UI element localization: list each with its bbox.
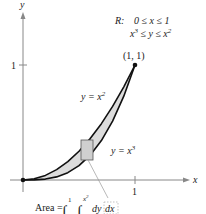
- representative-rectangle: [81, 140, 93, 160]
- dy-term: dy: [92, 203, 102, 214]
- point-1-1: [133, 63, 138, 68]
- lower-curve-exp: 3: [131, 144, 136, 152]
- origin-point: [21, 178, 26, 183]
- region-condition-y: x3 ≤ y ≤ x2: [129, 27, 172, 39]
- outer-integral-sign: ∫: [61, 203, 68, 214]
- area-formula-lhs: Area =: [35, 202, 63, 213]
- x-axis-arrow-icon: [183, 178, 190, 183]
- point-label: (1, 1): [123, 50, 145, 62]
- y-axis-arrow-icon: [21, 12, 26, 19]
- cond2-exp2: 2: [168, 27, 172, 35]
- inner-integral-sign: ∫: [76, 203, 83, 214]
- cond2-mid: ≤ y ≤ x: [138, 28, 168, 39]
- x-tick-label: 1: [132, 186, 137, 197]
- upper-curve-lhs: y = x: [80, 91, 102, 102]
- dx-term: dx: [105, 203, 115, 214]
- inner-upper-limit: x2: [82, 194, 89, 203]
- lower-curve-label: y = x3: [110, 144, 136, 156]
- leader-line: [88, 160, 108, 198]
- x-axis-label: x: [192, 174, 198, 185]
- region-diagram: y x 1 1 R: 0 ≤ x ≤ 1 x3 ≤ y ≤ x2 (1, 1) …: [0, 0, 206, 214]
- y-tick-label: 1: [11, 60, 16, 71]
- region-name: R:: [114, 15, 124, 26]
- outer-upper-limit: 1: [68, 196, 72, 204]
- lower-curve-lhs: y = x: [110, 145, 132, 156]
- upper-curve-exp: 2: [102, 90, 106, 98]
- shaded-region: [23, 65, 135, 180]
- y-axis-label: y: [19, 0, 25, 10]
- inner-upper-exp: 2: [86, 194, 89, 199]
- region-condition-x: 0 ≤ x ≤ 1: [134, 15, 169, 26]
